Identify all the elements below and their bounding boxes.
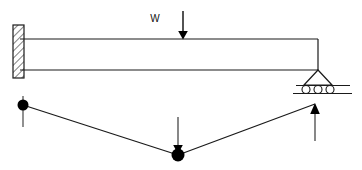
beam-elevation-group: W	[13, 11, 352, 94]
left-node	[18, 100, 29, 111]
beam-member	[20, 39, 318, 70]
right-reaction-arrow	[310, 103, 320, 141]
center-node	[172, 149, 185, 162]
point-load-arrow	[178, 11, 188, 40]
point-load-arrowhead	[178, 31, 188, 40]
roller-support-triangle	[304, 70, 332, 85]
point-load-label: W	[150, 13, 160, 24]
fbd-left-segment	[23, 105, 178, 155]
roller-circle-1	[302, 86, 310, 94]
center-load-arrow	[173, 117, 183, 154]
fbd-right-segment	[178, 104, 315, 155]
reaction-free-body-group	[18, 96, 320, 162]
roller-circle-2	[314, 86, 322, 94]
roller-support	[293, 70, 352, 94]
roller-circle-3	[326, 86, 334, 94]
diagram-canvas: W	[0, 0, 362, 170]
beam-diagram-figure: W	[0, 0, 362, 170]
